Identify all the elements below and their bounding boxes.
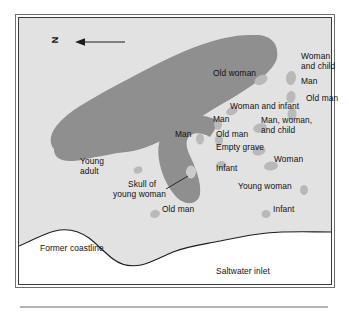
grave-infant-bottom xyxy=(262,210,271,218)
grave-young-woman xyxy=(300,185,308,195)
site-map-graphic xyxy=(19,18,332,285)
figure-archaeological-site-map: N Old woman Woman and child Man Old man … xyxy=(0,0,349,320)
bottom-rule xyxy=(20,306,328,308)
grave-man-mid xyxy=(214,118,222,130)
figure-frame-inner xyxy=(18,17,332,285)
grave-man-left xyxy=(196,134,204,145)
grave-old-man-mid xyxy=(215,134,223,146)
